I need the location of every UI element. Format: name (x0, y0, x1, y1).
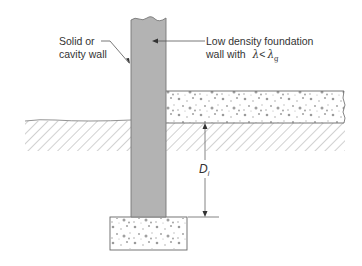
depth-label: Di (199, 162, 210, 177)
floor-slab (166, 91, 345, 123)
ground-right (166, 123, 345, 151)
foundation-diagram: Solid or cavity wall Low density foundat… (0, 0, 362, 266)
footing (110, 217, 187, 250)
wall (131, 17, 166, 217)
wall-label-line1: Solid or (59, 35, 95, 47)
foundation-label-line1: Low density foundation (206, 35, 314, 47)
ground-left (25, 120, 131, 151)
foundation-label-line2: wall with λ<λg (205, 48, 279, 63)
wall-label-line2: cavity wall (59, 48, 107, 60)
